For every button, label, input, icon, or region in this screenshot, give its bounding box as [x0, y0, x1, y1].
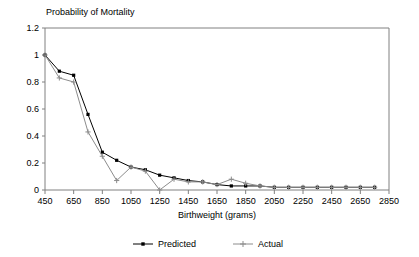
data-point-marker: [358, 185, 363, 190]
data-point-marker: [372, 185, 377, 190]
data-point-marker: [230, 184, 233, 187]
legend-label: Predicted: [158, 239, 196, 249]
data-point-marker: [343, 185, 348, 190]
data-point-marker: [315, 185, 320, 190]
x-tick-label: 850: [95, 196, 110, 206]
data-point-marker: [229, 177, 234, 182]
legend-marker-square-icon: [141, 242, 144, 245]
x-tick-label: 1850: [236, 196, 256, 206]
data-point-marker: [257, 183, 262, 188]
x-axis-title: Birthweight (grams): [178, 210, 256, 220]
data-point-marker: [100, 154, 105, 159]
data-point-marker: [72, 74, 75, 77]
x-tick-label: 2450: [322, 196, 342, 206]
y-axis-tick-labels: 00.20.40.60.811.2: [26, 23, 39, 195]
y-tick-label: 1: [34, 50, 39, 60]
plot-frame: [45, 28, 389, 190]
data-point-marker: [243, 181, 248, 186]
y-tick-label: 0.4: [26, 131, 39, 141]
x-tick-label: 2250: [293, 196, 313, 206]
y-tick-label: 0.2: [26, 158, 39, 168]
data-point-marker: [329, 185, 334, 190]
x-tick-label: 1450: [178, 196, 198, 206]
x-tick-label: 1650: [207, 196, 227, 206]
x-tick-label: 1250: [150, 196, 170, 206]
chart-plot: 00.20.40.60.811.2 4506508501050125014501…: [0, 0, 419, 257]
x-axis-ticks: [45, 190, 389, 194]
x-tick-label: 1050: [121, 196, 141, 206]
data-point-marker: [214, 182, 219, 187]
x-tick-label: 2850: [379, 196, 399, 206]
data-point-marker: [200, 179, 205, 184]
x-axis-tick-labels: 4506508501050125014501650185020502250245…: [37, 196, 399, 206]
data-point-marker: [158, 174, 161, 177]
data-point-marker: [286, 185, 291, 190]
data-point-marker: [86, 113, 89, 116]
data-point-marker: [272, 185, 277, 190]
y-tick-label: 1.2: [26, 23, 39, 33]
x-tick-label: 2050: [264, 196, 284, 206]
legend-label: Actual: [258, 239, 283, 249]
x-tick-label: 450: [37, 196, 52, 206]
data-point-marker: [101, 151, 104, 154]
x-tick-label: 650: [66, 196, 81, 206]
chart-legend: PredictedActual: [133, 239, 283, 249]
data-point-marker: [85, 129, 90, 134]
legend-marker-plus-icon: [240, 241, 246, 247]
data-point-marker: [57, 75, 62, 80]
x-tick-label: 2650: [350, 196, 370, 206]
data-point-marker: [300, 185, 305, 190]
data-point-marker: [58, 70, 61, 73]
data-point-marker: [115, 159, 118, 162]
series-predicted: [43, 53, 376, 189]
y-tick-label: 0.6: [26, 104, 39, 114]
y-tick-label: 0.8: [26, 77, 39, 87]
data-series-group: [42, 52, 377, 192]
series-actual: [42, 52, 377, 192]
chart-container: Probability of Mortality 00.20.40.60.811…: [0, 0, 419, 257]
legend-item-predicted[interactable]: Predicted: [133, 239, 196, 249]
legend-item-actual[interactable]: Actual: [233, 239, 283, 249]
y-tick-label: 0: [34, 185, 39, 195]
